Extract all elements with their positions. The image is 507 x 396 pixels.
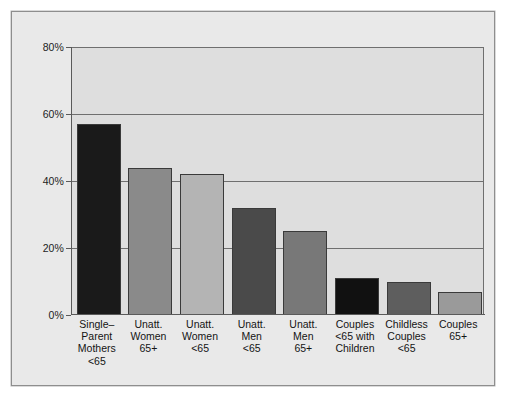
category-label-line: <65 bbox=[71, 355, 123, 367]
category-label-line: Couples bbox=[432, 318, 484, 330]
category-label-5: Unatt.Men65+ bbox=[278, 318, 330, 355]
x-axis-line bbox=[71, 314, 485, 315]
category-label-line: 65+ bbox=[278, 342, 330, 354]
category-label-3: Unatt.Women<65 bbox=[174, 318, 226, 355]
category-label-line: Unatt. bbox=[123, 318, 175, 330]
category-label-line: Unatt. bbox=[278, 318, 330, 330]
plot-area bbox=[71, 47, 484, 315]
category-label-line: <65 bbox=[381, 342, 433, 354]
category-label-6: Couples<65 withChildren bbox=[329, 318, 381, 355]
category-label-line: <65 bbox=[226, 342, 278, 354]
x-axis-category-labels: Single–ParentMothers<65Unatt.Women65+Una… bbox=[71, 318, 485, 384]
category-label-line: Single– bbox=[71, 318, 123, 330]
category-label-line: Children bbox=[329, 342, 381, 354]
category-label-4: Unatt.Men<65 bbox=[226, 318, 278, 355]
category-label-line: Women bbox=[123, 330, 175, 342]
category-label-line: 65+ bbox=[432, 330, 484, 342]
y-axis-tick-labels: 0%20%40%60%80% bbox=[12, 12, 64, 387]
y-tick-label: 20% bbox=[16, 242, 64, 254]
category-label-line: Parent bbox=[71, 330, 123, 342]
category-label-line: <65 bbox=[174, 342, 226, 354]
y-tick-mark bbox=[66, 315, 71, 316]
gridline-80pct bbox=[71, 47, 484, 48]
y-tick-label: 60% bbox=[16, 108, 64, 120]
category-label-line: Unatt. bbox=[226, 318, 278, 330]
category-label-line: Unatt. bbox=[174, 318, 226, 330]
y-tick-label: 40% bbox=[16, 175, 64, 187]
category-label-2: Unatt.Women65+ bbox=[123, 318, 175, 355]
category-label-line: Couples bbox=[381, 330, 433, 342]
bar-4 bbox=[232, 208, 276, 315]
bar-6 bbox=[335, 278, 379, 315]
bar-7 bbox=[387, 282, 431, 316]
category-label-line: Couples bbox=[329, 318, 381, 330]
category-label-line: 65+ bbox=[123, 342, 175, 354]
chart-figure: 0%20%40%60%80% Single–ParentMothers<65Un… bbox=[11, 11, 495, 386]
category-label-line: Childless bbox=[381, 318, 433, 330]
category-label-line: Women bbox=[174, 330, 226, 342]
category-label-1: Single–ParentMothers<65 bbox=[71, 318, 123, 367]
category-label-line: Mothers bbox=[71, 342, 123, 354]
bar-5 bbox=[283, 231, 327, 315]
y-tick-label: 80% bbox=[16, 41, 64, 53]
category-label-line: Men bbox=[278, 330, 330, 342]
category-label-7: ChildlessCouples<65 bbox=[381, 318, 433, 355]
category-label-line: <65 with bbox=[329, 330, 381, 342]
bar-1 bbox=[77, 124, 121, 315]
category-label-line: Men bbox=[226, 330, 278, 342]
gridline-60pct bbox=[71, 114, 484, 115]
y-tick-label: 0% bbox=[16, 309, 64, 321]
bar-8 bbox=[438, 292, 482, 315]
bar-3 bbox=[180, 174, 224, 315]
bar-2 bbox=[128, 168, 172, 315]
y-axis-line bbox=[71, 47, 72, 315]
category-label-8: Couples65+ bbox=[432, 318, 484, 342]
